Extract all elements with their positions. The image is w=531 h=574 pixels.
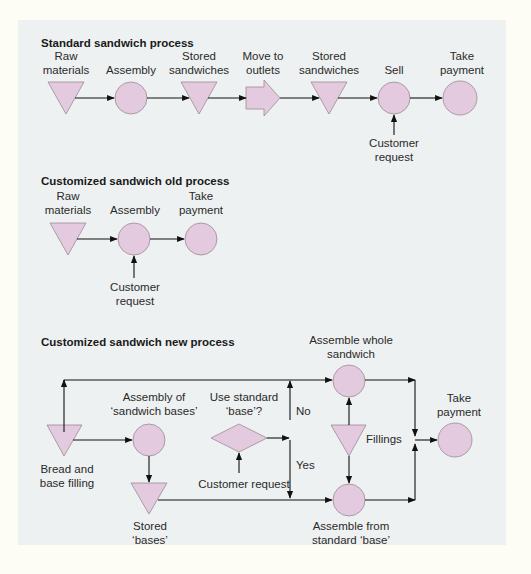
label-stored-sandwiches: Stored sandwiches (169, 50, 229, 77)
label-sell: Sell (384, 64, 403, 78)
old-take-payment-circle-icon (185, 223, 217, 255)
old-label-assembly: Assembly (110, 204, 160, 218)
move-to-outlets-arrow-icon (246, 80, 280, 116)
label-customer-request: Customer request (369, 137, 419, 164)
new-process-title: Customized sandwich new process (41, 336, 235, 348)
label-use-standard-base: Use standard ‘base’? (210, 391, 278, 418)
use-standard-base-diamond-icon (211, 424, 267, 452)
label-fillings: Fillings (366, 433, 402, 447)
label-bread-and-base-filling: Bread and base filling (40, 463, 94, 490)
new-label-take-payment: Take payment (437, 392, 481, 419)
label-stored-bases: Stored ‘bases’ (132, 520, 168, 547)
label-assemble-whole-sandwich: Assemble whole sandwich (309, 334, 393, 361)
assemble-from-base-circle-icon (333, 484, 365, 516)
standard-process-title: Standard sandwich process (41, 37, 194, 49)
label-yes: Yes (296, 459, 315, 473)
stored-bases-triangle-icon (131, 483, 167, 514)
assembly-bases-circle-icon (133, 424, 165, 456)
old-label-take-payment: Take payment (179, 190, 223, 217)
label-customer-request-new: Customer request (198, 478, 289, 492)
label-no: No (296, 405, 311, 419)
take-payment-circle-icon (443, 81, 477, 115)
old-label-customer-request: Customer request (110, 281, 160, 308)
assembly-circle-icon (115, 82, 147, 114)
label-take-payment: Take payment (440, 50, 484, 77)
old-label-raw-materials: Raw materials (45, 190, 92, 217)
label-raw-materials: Raw materials (43, 50, 90, 77)
label-assembly-of-sandwich-bases: Assembly of ‘sandwich bases’ (111, 391, 198, 418)
sell-circle-icon (378, 82, 410, 114)
label-assemble-from-standard-base: Assemble from standard ‘base’ (312, 520, 390, 547)
label-move-to-outlets: Move to outlets (243, 50, 284, 77)
new-take-payment-circle-icon (438, 423, 472, 457)
label-assembly: Assembly (106, 64, 156, 78)
label-stored-sandwiches-2: Stored sandwiches (299, 50, 359, 77)
assemble-whole-circle-icon (333, 365, 365, 397)
old-assembly-circle-icon (118, 223, 150, 255)
old-process-title: Customized sandwich old process (41, 175, 230, 187)
fillings-triangle-icon (331, 425, 366, 456)
